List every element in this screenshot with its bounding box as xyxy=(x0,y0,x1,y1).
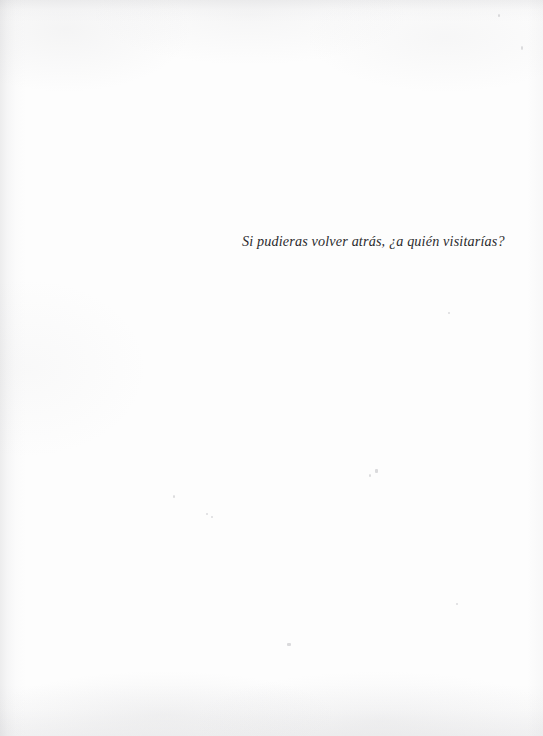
epigraph-text: Si pudieras volver atrás, ¿a quién visit… xyxy=(242,232,492,251)
paper-background xyxy=(0,0,543,736)
scanned-page: Si pudieras volver atrás, ¿a quién visit… xyxy=(0,0,543,736)
